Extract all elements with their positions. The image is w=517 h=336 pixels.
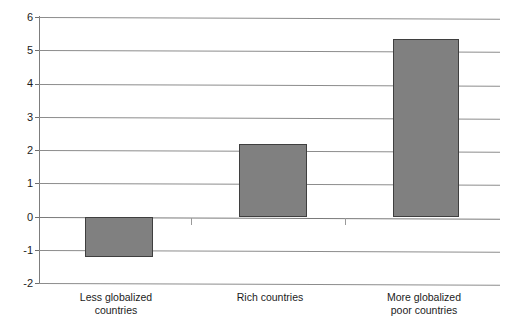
x-label-line-1: Rich countries <box>193 291 347 304</box>
y-tick-label-5: 5 <box>7 45 33 56</box>
y-tick-label-neg2: -2 <box>7 278 33 289</box>
y-tick-label-2: 2 <box>7 145 33 156</box>
bar-chart-figure: 6 5 4 3 2 1 0 -1 -2 <box>0 0 517 336</box>
x-label-rich-countries: Rich countries <box>193 291 347 304</box>
x-label-line-2: countries <box>39 304 193 317</box>
y-tick-label-neg1: -1 <box>7 245 33 256</box>
gridline-6 <box>39 17 500 20</box>
y-tick-label-3: 3 <box>7 112 33 123</box>
category-divider-2 <box>345 218 346 225</box>
x-label-line-1: More globalized <box>347 291 501 304</box>
x-label-line-1: Less globalized <box>39 291 193 304</box>
x-label-less-globalized-countries: Less globalized countries <box>39 291 193 317</box>
y-tick-label-1: 1 <box>7 178 33 189</box>
gridline-neg2 <box>39 283 500 286</box>
bar-rich-countries <box>239 144 307 217</box>
plot-area <box>39 17 500 283</box>
y-tick-label-0: 0 <box>7 212 33 223</box>
x-label-line-2: poor countries <box>347 304 501 317</box>
category-divider-1 <box>191 218 192 225</box>
x-axis-category-labels: Less globalized countries Rich countries… <box>39 291 509 336</box>
y-tick-label-6: 6 <box>7 12 33 23</box>
bar-less-globalized-countries <box>85 217 153 257</box>
x-label-more-globalized-poor-countries: More globalized poor countries <box>347 291 501 317</box>
y-axis-tick-labels: 6 5 4 3 2 1 0 -1 -2 <box>0 0 33 336</box>
y-tick-label-4: 4 <box>7 78 33 89</box>
bar-more-globalized-poor-countries <box>393 39 459 217</box>
